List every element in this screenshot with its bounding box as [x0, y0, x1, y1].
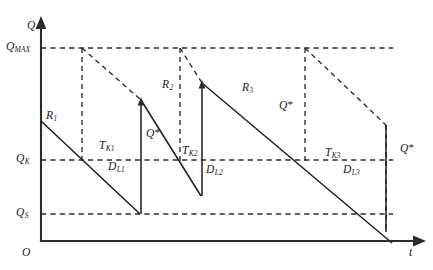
y-axis-label: Q [27, 20, 35, 32]
tk1-subscript: K1 [106, 144, 115, 153]
origin-label: O [22, 247, 30, 259]
qstar3-symbol: Q [400, 142, 408, 154]
order-quantity-label-3: Q* [400, 143, 414, 155]
order-quantity-label-1: Q* [146, 128, 160, 140]
r3-subscript: 3 [249, 86, 253, 95]
demand-label-3: DL3 [343, 164, 359, 176]
qs-symbol: Q [16, 206, 24, 218]
tk3-symbol: T [325, 146, 332, 158]
dl1-subscript: L1 [117, 165, 125, 174]
x-axis-label: t [409, 247, 412, 259]
x-axis-arrow [413, 236, 426, 247]
diagram-canvas [0, 0, 433, 270]
order-quantity-label-2: Q* [279, 100, 293, 112]
replenishment-slope-2 [180, 48, 202, 83]
dl3-symbol: D [343, 163, 351, 175]
axes [36, 16, 426, 246]
qstar2-symbol: Q [279, 99, 287, 111]
level-guides [41, 48, 393, 214]
qstar3-star: * [409, 141, 415, 153]
qstar1-symbol: Q [146, 127, 154, 139]
replenishment-label-1: R1 [46, 110, 57, 122]
tk3-subscript: K3 [332, 151, 341, 160]
y-axis-arrow [36, 16, 47, 29]
dl1-symbol: D [108, 160, 116, 172]
qstar1-star: * [155, 126, 161, 138]
depletion-segment-3 [202, 83, 392, 243]
dl2-symbol: D [206, 163, 214, 175]
dl3-subscript: L3 [352, 168, 360, 177]
qmax-subscript: MAX [14, 45, 30, 54]
replenishment-slope-1 [82, 48, 141, 100]
r1-subscript: 1 [53, 114, 57, 123]
replenishment-label-2: R2 [162, 79, 173, 91]
tk1-symbol: T [99, 139, 106, 151]
r2-subscript: 2 [169, 83, 173, 92]
inventory-curve [41, 80, 392, 243]
lead-time-label-3: TK3 [325, 147, 340, 159]
depletion-segment-1 [41, 121, 140, 214]
dl2-subscript: L2 [215, 168, 223, 177]
qk-level-label: QK [16, 153, 29, 165]
lead-time-label-2: TK2 [182, 145, 197, 157]
inventory-sawtooth-diagram: Q t O QMAX QK QS R1 R2 R3 DL1 DL2 DL3 TK… [0, 0, 433, 270]
tk2-subscript: K2 [189, 149, 198, 158]
qstar2-star: * [288, 98, 294, 110]
lead-time-label-1: TK1 [99, 140, 114, 152]
demand-label-1: DL1 [108, 161, 124, 173]
qs-level-label: QS [16, 207, 28, 219]
qs-subscript: S [25, 211, 29, 220]
construction-guides [82, 48, 386, 232]
demand-label-2: DL2 [206, 164, 222, 176]
qk-symbol: Q [16, 152, 24, 164]
tk2-symbol: T [182, 144, 189, 156]
qmax-level-label: QMAX [6, 41, 30, 53]
qk-subscript: K [25, 157, 30, 166]
replenishment-slope-3 [305, 48, 386, 125]
replenishment-label-3: R3 [242, 82, 253, 94]
